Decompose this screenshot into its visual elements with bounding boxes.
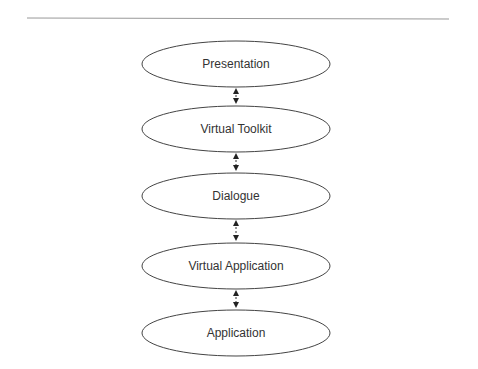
layer-label: Virtual Application [188,259,283,273]
layer-virtual-toolkit: Virtual Toolkit [142,106,330,152]
layer-virtual-application: Virtual Application [142,243,330,289]
layer-label: Virtual Toolkit [201,122,273,136]
layer-label: Application [207,326,266,340]
layer-diagram: Presentation Virtual Toolkit Dialogue Vi… [0,0,478,369]
layer-label: Presentation [202,57,269,71]
layer-presentation: Presentation [142,41,330,87]
layer-label: Dialogue [212,189,260,203]
layer-dialogue: Dialogue [142,173,330,219]
top-rule [27,18,449,19]
layer-application: Application [142,310,330,356]
